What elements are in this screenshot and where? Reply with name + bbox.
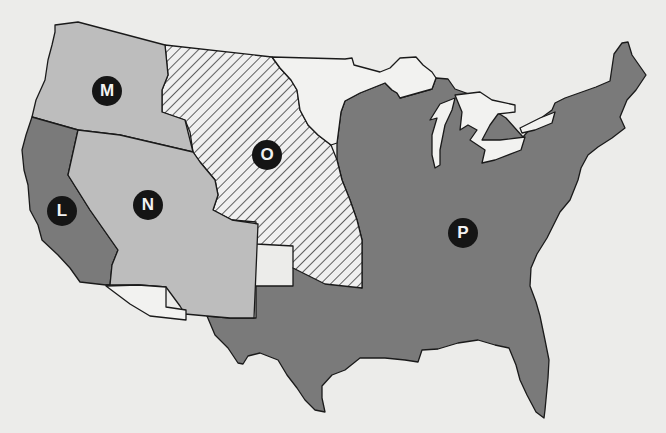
- region-marker-p: P: [448, 218, 478, 248]
- us-territorial-map: [0, 0, 666, 433]
- region-marker-n: N: [133, 190, 163, 220]
- region-marker-m: M: [92, 76, 122, 106]
- region-marker-l: L: [47, 196, 77, 226]
- region-marker-o: O: [252, 140, 282, 170]
